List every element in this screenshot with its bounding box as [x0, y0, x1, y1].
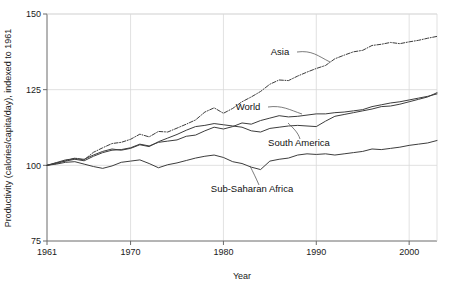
x-axis-title: Year: [233, 271, 251, 281]
y-axis-title: Productivity (calories/capita/day), inde…: [3, 29, 13, 228]
x-tick-label: 1970: [121, 247, 141, 257]
tick-marks: [43, 14, 409, 245]
x-tick-label: 1990: [306, 247, 326, 257]
series-annotations: AsiaWorldSouth AmericaSub-Saharan Africa: [211, 46, 331, 194]
x-tick-label: 1980: [213, 247, 233, 257]
y-tick-label: 150: [26, 9, 41, 19]
tick-labels: 1961197019801990200075100125150: [26, 9, 419, 257]
series-label-sub-saharan-africa: Sub-Saharan Africa: [211, 183, 294, 194]
y-tick-label: 125: [26, 85, 41, 95]
productivity-line-chart: 1961197019801990200075100125150 AsiaWorl…: [0, 0, 452, 285]
series-label-south-america: South America: [268, 137, 330, 148]
y-tick-label: 100: [26, 161, 41, 171]
leader-line: [297, 52, 330, 62]
chart-canvas: 1961197019801990200075100125150 AsiaWorl…: [0, 0, 452, 285]
series-label-world: World: [236, 101, 261, 112]
x-tick-label: 2000: [399, 247, 419, 257]
y-tick-label: 75: [31, 236, 41, 246]
series-label-asia: Asia: [271, 46, 290, 57]
x-tick-label: 1961: [37, 247, 57, 257]
leader-line: [268, 107, 302, 114]
